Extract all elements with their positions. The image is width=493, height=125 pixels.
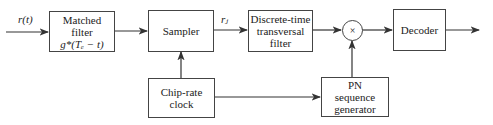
block-line: Chip-rate	[161, 86, 203, 98]
block-line: generator	[334, 103, 376, 115]
block-line: Sampler	[163, 25, 200, 37]
sampler-block: Sampler	[148, 10, 214, 52]
chip-rate-clock-block: Chip-rate clock	[148, 78, 215, 118]
block-line: filter	[71, 26, 92, 38]
block-line: g*(Tₑ − t)	[60, 38, 103, 50]
discrete-time-filter-block: Discrete-time transversal filter	[248, 10, 313, 52]
block-line: Matched	[63, 14, 101, 26]
block-line: Decoder	[401, 24, 438, 36]
block-line: sequence	[335, 91, 375, 103]
block-line: Discrete-time	[251, 13, 311, 25]
sample-label: rⱼ	[221, 13, 228, 26]
multiplier-icon: ×	[342, 20, 363, 41]
block-line: PN	[348, 79, 362, 91]
pn-generator-block: PN sequence generator	[321, 77, 389, 117]
matched-filter-block: Matched filter g*(Tₑ − t)	[49, 11, 115, 52]
block-line: clock	[170, 98, 194, 110]
block-line: transversal	[257, 25, 305, 37]
decoder-block: Decoder	[393, 9, 446, 51]
input-signal-label: r(t)	[18, 13, 33, 25]
block-line: filter	[270, 37, 291, 49]
